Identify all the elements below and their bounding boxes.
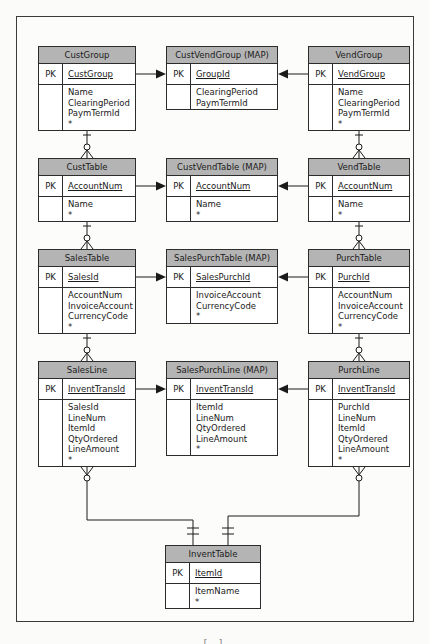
attr-line: AccountNum bbox=[338, 290, 409, 301]
pk-field: AccountNum bbox=[191, 176, 277, 196]
attr-line: LineNum bbox=[338, 413, 409, 424]
attr-list: AccountNumInvoiceAccountCurrencyCode* bbox=[333, 288, 409, 333]
attr-list: NameClearingPeriodPaymTermId* bbox=[63, 85, 135, 130]
pk-label: PK bbox=[166, 563, 190, 583]
attr-list: ClearingPeriodPaymTermId bbox=[191, 85, 277, 109]
entity-custvendtable: CustVendTable (MAP) PK AccountNum Name* bbox=[166, 158, 278, 222]
pk-field: GroupId bbox=[191, 64, 277, 84]
entity-custgroup: CustGroup PK CustGroup NameClearingPerio… bbox=[38, 46, 136, 131]
pk-field: VendGroup bbox=[333, 64, 409, 84]
pk-label: PK bbox=[167, 176, 191, 196]
entity-title: SalesPurchTable (MAP) bbox=[167, 250, 277, 267]
attr-list: ItemIdLineNumQtyOrderedLineAmount* bbox=[191, 400, 277, 455]
pk-field: CustGroup bbox=[63, 64, 135, 84]
entity-purchtable: PurchTable PK PurchId AccountNumInvoiceA… bbox=[308, 249, 410, 334]
entity-title: SalesLine bbox=[39, 362, 135, 379]
entity-salespurchline: SalesPurchLine (MAP) PK InventTransId It… bbox=[166, 361, 278, 456]
attr-line: LineNum bbox=[68, 413, 135, 424]
attr-list: ItemName* bbox=[190, 584, 260, 608]
pk-spacer bbox=[309, 85, 333, 130]
attr-line: AccountNum bbox=[68, 290, 135, 301]
pk-field: InventTransId bbox=[333, 379, 409, 399]
entity-custtable: CustTable PK AccountNum Name* bbox=[38, 158, 136, 222]
attr-line: * bbox=[196, 444, 277, 455]
entity-title: SalesTable bbox=[39, 250, 135, 267]
entity-attr-row: NameClearingPeriodPaymTermId* bbox=[309, 85, 409, 130]
pk-spacer bbox=[39, 197, 63, 221]
attr-line: Name bbox=[196, 199, 277, 210]
attr-list: NameClearingPeriodPaymTermId* bbox=[333, 85, 409, 130]
entity-title: PurchLine bbox=[309, 362, 409, 379]
entity-title: CustGroup bbox=[39, 47, 135, 64]
pk-spacer bbox=[39, 400, 63, 466]
attr-line: * bbox=[195, 597, 260, 608]
attr-line: PaymTermId bbox=[338, 108, 409, 119]
attr-line: * bbox=[338, 455, 409, 466]
entity-title: CustVendTable (MAP) bbox=[167, 159, 277, 176]
entity-purchline: PurchLine PK InventTransId PurchIdLineNu… bbox=[308, 361, 410, 467]
pk-label: PK bbox=[167, 379, 191, 399]
entity-attr-row: AccountNumInvoiceAccountCurrencyCode* bbox=[39, 288, 135, 333]
entity-pk-row: PK ItemId bbox=[166, 563, 260, 584]
entity-pk-row: PK AccountNum bbox=[167, 176, 277, 197]
entity-title: VendGroup bbox=[309, 47, 409, 64]
entity-pk-row: PK AccountNum bbox=[39, 176, 135, 197]
pk-spacer bbox=[309, 288, 333, 333]
attr-line: Name bbox=[68, 199, 135, 210]
pk-spacer bbox=[167, 288, 191, 323]
attr-line: PaymTermId bbox=[196, 98, 277, 109]
entity-attr-row: SalesIdLineNumItemIdQtyOrderedLineAmount… bbox=[39, 400, 135, 466]
entity-attr-row: NameClearingPeriodPaymTermId* bbox=[39, 85, 135, 130]
entity-attr-row: Name* bbox=[167, 197, 277, 221]
entity-attr-row: InvoiceAccountCurrencyCode* bbox=[167, 288, 277, 323]
entity-pk-row: PK VendGroup bbox=[309, 64, 409, 85]
pk-label: PK bbox=[39, 176, 63, 196]
pk-label: PK bbox=[309, 379, 333, 399]
pk-field: AccountNum bbox=[63, 176, 135, 196]
attr-line: CurrencyCode bbox=[196, 301, 277, 312]
attr-line: Name bbox=[338, 87, 409, 98]
pk-label: PK bbox=[309, 267, 333, 287]
attr-line: LineAmount bbox=[68, 444, 135, 455]
pk-field: AccountNum bbox=[333, 176, 409, 196]
entity-attr-row: ItemIdLineNumQtyOrderedLineAmount* bbox=[167, 400, 277, 455]
pk-spacer bbox=[309, 400, 333, 466]
pk-field: InventTransId bbox=[63, 379, 135, 399]
attr-line: QtyOrdered bbox=[68, 434, 135, 445]
entity-salespurchtable: SalesPurchTable (MAP) PK SalesPurchId In… bbox=[166, 249, 278, 324]
attr-line: * bbox=[68, 210, 135, 221]
attr-list: SalesIdLineNumItemIdQtyOrderedLineAmount… bbox=[63, 400, 135, 466]
attr-line: * bbox=[338, 119, 409, 130]
pk-label: PK bbox=[167, 64, 191, 84]
attr-line: LineAmount bbox=[338, 444, 409, 455]
attr-list: Name* bbox=[63, 197, 135, 221]
attr-line: * bbox=[196, 311, 277, 322]
entity-vendtable: VendTable PK AccountNum Name* bbox=[308, 158, 410, 222]
pk-label: PK bbox=[39, 379, 63, 399]
pk-field: InventTransId bbox=[191, 379, 277, 399]
attr-line: LineAmount bbox=[196, 434, 277, 445]
entity-attr-row: AccountNumInvoiceAccountCurrencyCode* bbox=[309, 288, 409, 333]
entity-title: VendTable bbox=[309, 159, 409, 176]
attr-line: InvoiceAccount bbox=[338, 301, 409, 312]
entity-attr-row: PurchIdLineNumItemIdQtyOrderedLineAmount… bbox=[309, 400, 409, 466]
attr-line: ItemId bbox=[338, 423, 409, 434]
pk-spacer bbox=[309, 197, 333, 221]
entity-title: CustVendGroup (MAP) bbox=[167, 47, 277, 64]
attr-line: SalesId bbox=[68, 402, 135, 413]
attr-line: * bbox=[196, 210, 277, 221]
pk-label: PK bbox=[167, 267, 191, 287]
entity-salestable: SalesTable PK SalesId AccountNumInvoiceA… bbox=[38, 249, 136, 334]
pk-spacer bbox=[167, 85, 191, 109]
attr-line: QtyOrdered bbox=[196, 423, 277, 434]
attr-list: PurchIdLineNumItemIdQtyOrderedLineAmount… bbox=[333, 400, 409, 466]
attr-line: InvoiceAccount bbox=[196, 290, 277, 301]
attr-line: InvoiceAccount bbox=[68, 301, 135, 312]
pk-label: PK bbox=[39, 64, 63, 84]
attr-line: * bbox=[68, 322, 135, 333]
attr-line: ClearingPeriod bbox=[68, 98, 135, 109]
entity-title: InventTable bbox=[166, 546, 260, 563]
pk-spacer bbox=[167, 400, 191, 455]
attr-line: PurchId bbox=[338, 402, 409, 413]
entity-attr-row: Name* bbox=[39, 197, 135, 221]
